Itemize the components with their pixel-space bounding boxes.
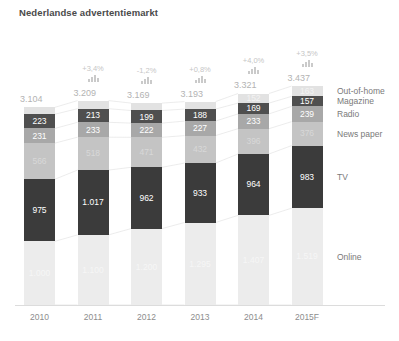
bar-segment-magazine[interactable]: 188 [185, 109, 216, 121]
growth-rate-value: +3,5% [280, 49, 335, 58]
bar-segment-value: 213 [86, 111, 100, 120]
mini-bar-chart-icon [248, 67, 259, 74]
bar-segment-radio[interactable]: 222 [131, 123, 162, 137]
bar-segment-out-of-home[interactable]: 118 [185, 102, 216, 110]
growth-rate-value: +3,4% [66, 64, 121, 73]
bar-segment-out-of-home[interactable]: 128 [78, 101, 109, 109]
x-axis-label-2012: 2012 [131, 312, 162, 322]
bar-segment-out-of-home[interactable]: 163 [292, 86, 323, 96]
mini-bar-chart-icon [88, 75, 99, 82]
legend-item-radio[interactable]: Radio [337, 109, 359, 119]
bar-segment-value: 227 [193, 124, 207, 133]
column-total-label: 3.321 [234, 80, 257, 90]
mini-bar-chart-icon [141, 77, 152, 84]
bar-segment-value: 376 [300, 129, 314, 138]
bar-segment-value: 1.295 [189, 260, 210, 269]
growth-rate-annotation: +3,4% [66, 64, 121, 82]
bar-segment-tv[interactable]: 964 [238, 154, 269, 215]
growth-rate-value: +0,8% [173, 65, 228, 74]
bar-segment-news-paper[interactable]: 396 [238, 129, 269, 154]
x-axis-label-2015f: 2015F [292, 312, 323, 322]
bar-segment-value: 962 [139, 194, 153, 203]
bar-segment-magazine[interactable]: 169 [238, 103, 269, 114]
bar-segment-news-paper[interactable]: 376 [292, 122, 323, 146]
column-total-label: 3.209 [74, 88, 97, 98]
bar-segment-value: 432 [193, 145, 207, 154]
bar-segment-news-paper[interactable]: 518 [78, 137, 109, 170]
bar-segment-tv[interactable]: 962 [131, 167, 162, 228]
bar-segment-tv[interactable]: 1.017 [78, 170, 109, 235]
bar-segment-magazine[interactable]: 213 [78, 109, 109, 123]
bar-segment-value: 1.100 [82, 266, 103, 275]
bar-segment-radio[interactable]: 233 [78, 122, 109, 137]
column-total-label: 3.169 [127, 90, 150, 100]
bar-segment-news-paper[interactable]: 471 [131, 137, 162, 167]
bar-segment-value: 231 [32, 132, 46, 141]
legend-item-magazine[interactable]: Magazine [337, 96, 374, 106]
bar-segment-value: 396 [246, 137, 260, 146]
bar-segment-value: 964 [246, 180, 260, 189]
legend-item-tv[interactable]: TV [337, 172, 348, 182]
bar-column-2011[interactable]: 1282132335181.0171.100 [78, 101, 109, 305]
bar-segment-value: 199 [139, 113, 153, 122]
bar-segment-magazine[interactable]: 199 [131, 110, 162, 123]
growth-rate-annotation: +0,8% [173, 65, 228, 83]
bar-segment-online[interactable]: 1.100 [78, 235, 109, 305]
column-total-label: 3.104 [20, 94, 43, 104]
growth-rate-value: +4,0% [226, 56, 281, 65]
bar-column-2013[interactable]: 1181882274329331.295 [185, 102, 216, 305]
bar-segment-value: 983 [300, 173, 314, 182]
bar-column-2015f[interactable]: 1631572393769831.519 [292, 86, 323, 305]
x-axis-label-2011: 2011 [78, 312, 109, 322]
bar-segment-online[interactable]: 1.519 [292, 208, 323, 305]
bar-column-2010[interactable]: 1092232315669751.000 [24, 107, 55, 305]
bar-column-2012[interactable]: 1151992224719621.200 [131, 103, 162, 305]
mini-bar-chart-icon [302, 60, 313, 67]
bar-segment-value: 157 [300, 97, 314, 106]
bar-segment-out-of-home[interactable]: 109 [24, 107, 55, 114]
bar-segment-value: 471 [139, 148, 153, 157]
bar-segment-out-of-home[interactable]: 115 [131, 103, 162, 110]
bar-segment-radio[interactable]: 227 [185, 121, 216, 135]
bar-segment-value: 1.200 [136, 263, 157, 272]
growth-rate-annotation: -1,2% [119, 66, 174, 84]
bar-segment-value: 239 [300, 110, 314, 119]
bar-segment-radio[interactable]: 231 [24, 128, 55, 143]
bar-column-2014[interactable]: 1521692333969641.407 [238, 94, 269, 306]
bar-segment-value: 233 [86, 126, 100, 135]
bar-segment-online[interactable]: 1.200 [131, 229, 162, 305]
growth-rate-annotation: +4,0% [226, 56, 281, 74]
bar-segment-news-paper[interactable]: 566 [24, 143, 55, 179]
growth-rate-annotation: +3,5% [280, 49, 335, 67]
bar-segment-radio[interactable]: 233 [238, 114, 269, 129]
legend-item-online[interactable]: Online [337, 252, 362, 262]
bar-segment-online[interactable]: 1.295 [185, 223, 216, 305]
bar-segment-magazine[interactable]: 157 [292, 96, 323, 106]
bar-segment-tv[interactable]: 933 [185, 163, 216, 222]
bar-segment-tv[interactable]: 983 [292, 146, 323, 209]
bar-segment-value: 188 [193, 111, 207, 120]
bar-segment-value: 518 [86, 149, 100, 158]
bar-segment-online[interactable]: 1.407 [238, 215, 269, 305]
bar-segment-value: 152 [246, 94, 260, 103]
bar-segment-value: 933 [193, 189, 207, 198]
bar-segment-magazine[interactable]: 223 [24, 114, 55, 128]
bar-segment-radio[interactable]: 239 [292, 106, 323, 121]
bar-segment-news-paper[interactable]: 432 [185, 136, 216, 164]
bar-segment-value: 1.519 [296, 252, 317, 261]
bar-segment-online[interactable]: 1.000 [24, 241, 55, 305]
x-axis-label-2010: 2010 [24, 312, 55, 322]
bar-segment-value: 223 [32, 117, 46, 126]
growth-rate-value: -1,2% [119, 66, 174, 75]
bar-segment-tv[interactable]: 975 [24, 179, 55, 241]
bar-segment-value: 169 [246, 104, 260, 113]
x-axis-label-2013: 2013 [185, 312, 216, 322]
legend-item-out-of-home[interactable]: Out-of-home [337, 86, 385, 96]
legend-item-news-paper[interactable]: News paper [337, 129, 382, 139]
bar-segment-value: 1.000 [29, 269, 50, 278]
bar-segment-value: 1.407 [243, 256, 264, 265]
bar-segment-value: 222 [139, 126, 153, 135]
x-axis-label-2014: 2014 [238, 312, 269, 322]
bar-segment-out-of-home[interactable]: 152 [238, 94, 269, 104]
x-axis-line [15, 305, 385, 306]
